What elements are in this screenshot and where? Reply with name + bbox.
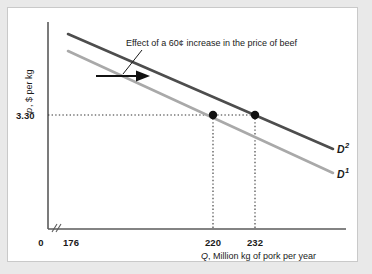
y-axis-title-rest: , $ per kg bbox=[24, 69, 34, 107]
curve-label-d2-base: D bbox=[337, 143, 345, 155]
x-tick-label-232: 232 bbox=[247, 237, 263, 248]
y-axis-labels-group: 3.30 p , $ per kg bbox=[16, 69, 35, 121]
axes-group bbox=[48, 22, 346, 232]
curve-label-d1-base: D bbox=[337, 168, 345, 180]
annotation-leader-line bbox=[123, 50, 142, 74]
x-axis-title-symbol: Q bbox=[201, 251, 208, 261]
x-axis-title-rest: , Million kg of pork per year bbox=[208, 251, 316, 261]
screenshot-root: D 2 D 1 Effect of a 60¢ increase in the … bbox=[0, 0, 372, 274]
demand-shift-chart: D 2 D 1 Effect of a 60¢ increase in the … bbox=[8, 8, 357, 261]
curve-label-d1-sup: 1 bbox=[345, 166, 349, 175]
equilibrium-point-220 bbox=[209, 111, 217, 119]
curve-label-d2-sup: 2 bbox=[344, 141, 350, 150]
demand-curves-group bbox=[68, 34, 333, 173]
demand-curve-d1 bbox=[68, 51, 333, 173]
axis-break-icon bbox=[52, 224, 61, 232]
equilibrium-point-232 bbox=[251, 111, 259, 119]
figure-card: D 2 D 1 Effect of a 60¢ increase in the … bbox=[7, 7, 358, 262]
x-axis-title: Q , Million kg of pork per year bbox=[201, 251, 316, 261]
curve-label-d1: D 1 bbox=[337, 166, 349, 180]
x-tick-label-0: 0 bbox=[38, 237, 43, 248]
curve-label-d2: D 2 bbox=[337, 141, 350, 155]
shift-annotation-text: Effect of a 60¢ increase in the price of… bbox=[126, 38, 297, 48]
x-tick-label-220: 220 bbox=[205, 237, 221, 248]
x-axis-labels-group: 0 176 220 232 Q , Million kg of pork per… bbox=[38, 237, 316, 261]
guide-lines-group bbox=[48, 115, 255, 229]
demand-curve-d2 bbox=[68, 34, 333, 149]
x-tick-label-176: 176 bbox=[63, 237, 79, 248]
y-axis-title-symbol: p bbox=[24, 108, 34, 114]
shift-arrow-icon bbox=[96, 71, 150, 82]
y-axis-title: p , $ per kg bbox=[24, 69, 34, 114]
